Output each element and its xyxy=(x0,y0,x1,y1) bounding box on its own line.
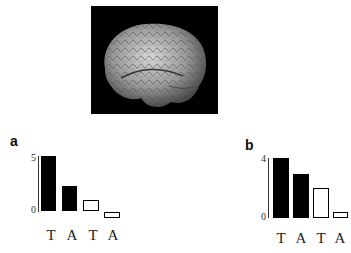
y-axis xyxy=(268,158,269,218)
panel-label-a: a xyxy=(10,133,18,149)
bar xyxy=(293,174,309,218)
bar xyxy=(104,212,120,218)
y-tick-label: 0 xyxy=(256,211,266,222)
y-tick-label: 0 xyxy=(26,204,36,215)
y-axis xyxy=(38,156,39,212)
bar xyxy=(333,212,348,218)
bar xyxy=(62,186,77,211)
bar xyxy=(41,156,56,211)
bar xyxy=(273,158,289,218)
x-tick-label: T xyxy=(43,227,59,244)
x-tick-label: A xyxy=(332,230,348,247)
y-tick-label: 5 xyxy=(26,152,36,163)
brain-render-icon xyxy=(91,6,218,114)
x-tick-label: T xyxy=(313,230,329,247)
y-tick-label: 4 xyxy=(256,153,266,164)
x-tick-label: A xyxy=(64,227,80,244)
panel-label-b: b xyxy=(245,137,254,153)
x-tick-label: T xyxy=(85,227,101,244)
bar xyxy=(83,200,99,211)
x-tick-label: A xyxy=(293,230,309,247)
x-tick-label: A xyxy=(105,227,121,244)
bar xyxy=(313,188,329,218)
x-tick-label: T xyxy=(273,230,289,247)
brain-image xyxy=(91,6,218,114)
